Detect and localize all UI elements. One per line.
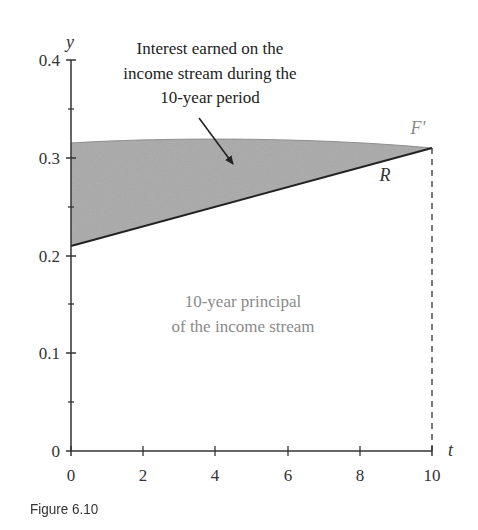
y-tick-label-0.3: 0.3 bbox=[39, 149, 60, 168]
x-tick-label-10: 10 bbox=[424, 466, 441, 485]
r-label: R bbox=[379, 165, 391, 185]
f-prime-label: F' bbox=[410, 118, 427, 138]
x-axis bbox=[66, 446, 432, 456]
x-tick-label-0: 0 bbox=[67, 466, 76, 485]
x-tick-label-8: 8 bbox=[356, 466, 365, 485]
x-axis-label: t bbox=[448, 440, 454, 460]
principal-annotation-line2: of the income stream bbox=[171, 317, 314, 336]
x-tick-label-4: 4 bbox=[211, 466, 220, 485]
x-tick-label-2: 2 bbox=[139, 466, 148, 485]
chart: 0.4 0.3 0.2 0.1 0 0 2 4 6 8 10 y t Inter… bbox=[0, 0, 478, 530]
y-tick-label-0: 0 bbox=[52, 442, 61, 461]
principal-annotation-line1: 10-year principal bbox=[185, 292, 302, 311]
interest-annotation-line2: income stream during the bbox=[123, 64, 296, 83]
y-tick-label-0.2: 0.2 bbox=[39, 247, 60, 266]
y-tick-label-0.4: 0.4 bbox=[39, 51, 61, 70]
interest-region bbox=[71, 139, 432, 246]
x-tick-label-6: 6 bbox=[284, 466, 293, 485]
y-tick-label-0.1: 0.1 bbox=[39, 344, 60, 363]
y-axis-label: y bbox=[64, 32, 74, 52]
interest-annotation-line1: Interest earned on the bbox=[137, 39, 284, 58]
interest-annotation-line3: 10-year period bbox=[160, 88, 260, 107]
figure-caption: Figure 6.10 bbox=[30, 500, 98, 517]
y-axis bbox=[66, 60, 76, 451]
